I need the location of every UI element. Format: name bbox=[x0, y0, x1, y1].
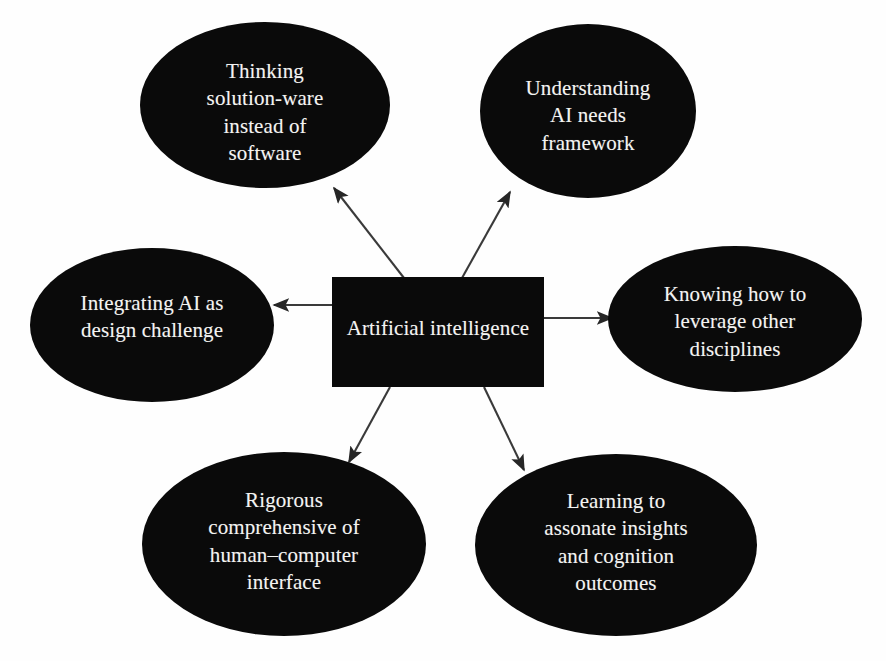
node-shape-learning-assonate[interactable] bbox=[475, 454, 757, 636]
diagram-canvas: Thinking solution-ware instead of softwa… bbox=[0, 0, 886, 661]
connector-center-to-thinking-solution-ware bbox=[334, 188, 404, 278]
diagram-graphics bbox=[0, 0, 886, 661]
connector-center-to-understanding-ai-needs bbox=[462, 192, 510, 278]
node-shape-thinking-solution-ware[interactable] bbox=[140, 22, 390, 188]
node-shape-rigorous-comprehensive[interactable] bbox=[142, 452, 426, 636]
node-shape-knowing-leverage[interactable] bbox=[608, 246, 862, 392]
node-shape-center[interactable] bbox=[332, 277, 544, 387]
connector-center-to-learning-assonate bbox=[484, 387, 524, 470]
connector-center-to-rigorous-comprehensive bbox=[349, 387, 390, 462]
node-shape-integrating-ai[interactable] bbox=[30, 248, 274, 402]
node-shape-group bbox=[30, 22, 862, 636]
node-shape-understanding-ai-needs[interactable] bbox=[480, 24, 696, 198]
